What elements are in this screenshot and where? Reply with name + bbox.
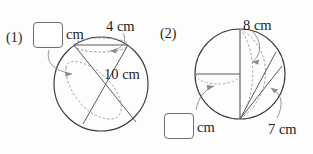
figure-2-slant-line-lower — [240, 66, 282, 119]
problem-2-number: (2) — [160, 27, 176, 41]
figure-2-dim-8cm-leader — [252, 32, 260, 62]
problem-1-answer-box[interactable] — [33, 22, 63, 48]
problem-1-dimension-10cm: 10 cm — [104, 67, 140, 82]
figure-1-leader-line — [48, 50, 72, 74]
figure-1-sphere — [48, 33, 148, 131]
figure-2-leader-line — [196, 86, 214, 110]
figure-2-dim-8cm-arrowhead — [252, 59, 259, 64]
figure-1-slant-line-left — [74, 45, 136, 122]
figure-2-dim-7cm-leader — [271, 88, 281, 118]
problem-2-dimension-8cm: 8 cm — [243, 18, 272, 33]
problem-1-answer-unit: cm — [66, 27, 84, 42]
problem-2-dimension-7cm: 7 cm — [268, 122, 297, 137]
figure-1-outline-circle — [54, 37, 148, 131]
figure-2-cone-arc-outer — [240, 29, 266, 119]
figure-2-sphere — [195, 29, 285, 119]
problem-2-answer-unit: cm — [197, 120, 215, 135]
figure-1-top-section-front — [74, 45, 128, 52]
figure-1-dim-4cm-arrowhead — [110, 48, 117, 53]
problem-1-dimension-4cm: 4 cm — [106, 19, 135, 34]
problem-2-answer-box[interactable] — [164, 113, 194, 139]
problem-1-number: (1) — [6, 31, 22, 45]
geometry-worksheet: (1) cm 4 cm 10 cm (2) 8 cm 7 cm cm — [0, 0, 313, 154]
figure-2-left-section-ellipse — [196, 74, 240, 84]
figure-1-leader-arrowhead — [65, 72, 72, 77]
figure-2-leader-arrowhead — [207, 85, 214, 90]
figure-1-slant-line-right — [83, 45, 128, 124]
